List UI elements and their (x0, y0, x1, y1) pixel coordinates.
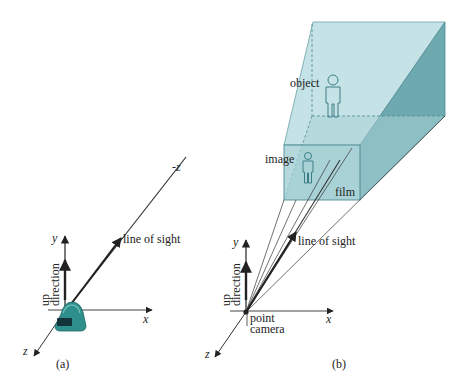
pinhole-camera-diagram: -z line of sight x y z up direction (a) (0, 0, 467, 388)
line-of-sight-arrow-b (246, 232, 296, 312)
z-axis-label-b: z (204, 347, 210, 361)
up-direction-label-b-2: direction (229, 263, 243, 306)
z-axis-b (215, 312, 246, 357)
image-label: image (265, 152, 294, 166)
y-axis-label-b: y (232, 235, 239, 249)
point-camera-label-2: camera (250, 322, 285, 336)
line-of-sight-arrow-a (68, 238, 121, 308)
panel-b: object image film line of sight x y z up… (204, 22, 445, 371)
panel-a: -z line of sight x y z up direction (a) (22, 157, 186, 371)
x-axis-label-a: x (142, 312, 149, 326)
object-label: object (290, 76, 320, 90)
panel-a-caption: (a) (56, 357, 69, 371)
up-direction-label-a-2: direction (48, 263, 62, 306)
panel-b-caption: (b) (332, 357, 346, 371)
camera-point (243, 309, 248, 314)
line-of-sight-label-a: line of sight (123, 232, 181, 246)
z-axis-label-a: z (22, 344, 28, 358)
film-label: film (335, 185, 356, 199)
x-axis-label-b: x (325, 312, 332, 326)
y-axis-label-a: y (51, 231, 58, 245)
neg-z-label: -z (172, 160, 181, 174)
line-of-sight-label-b: line of sight (298, 234, 356, 248)
